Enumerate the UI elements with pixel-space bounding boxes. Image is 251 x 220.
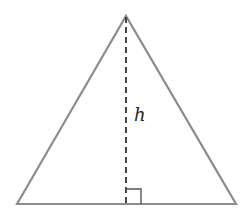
right-angle-marker: [126, 189, 141, 204]
height-label: h: [134, 104, 146, 125]
triangle-diagram: h: [0, 0, 251, 220]
